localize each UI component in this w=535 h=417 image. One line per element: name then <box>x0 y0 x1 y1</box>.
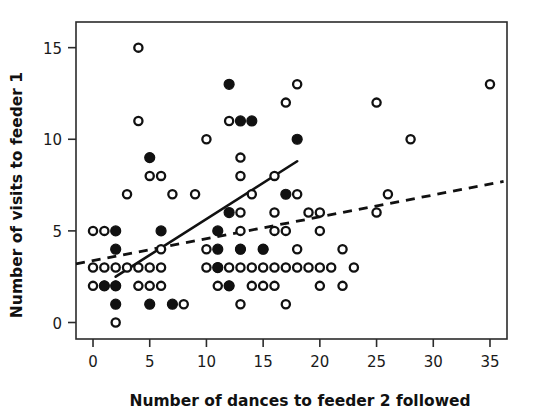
x-tick-label: 25 <box>367 353 386 371</box>
data-point-filled <box>111 244 121 254</box>
data-point-filled <box>247 116 257 126</box>
data-point-filled <box>224 281 234 291</box>
data-point-open <box>89 263 97 271</box>
data-point-filled <box>258 244 268 254</box>
chart-canvas: 05101520253035051015 Number of dances to… <box>0 0 535 417</box>
plot-frame <box>76 22 507 339</box>
data-point-open <box>327 263 335 271</box>
data-point-open <box>270 227 278 235</box>
x-tick-label: 30 <box>424 353 443 371</box>
x-axis-title: Number of dances to feeder 2 followed <box>129 392 470 410</box>
data-point-filled <box>145 153 155 163</box>
data-point-open <box>316 282 324 290</box>
data-point-open <box>134 44 142 52</box>
x-tick-label: 10 <box>197 353 216 371</box>
data-point-filled <box>111 226 121 236</box>
data-point-open <box>259 263 267 271</box>
data-point-open <box>134 282 142 290</box>
y-tick-label: 15 <box>43 40 62 58</box>
data-point-open <box>180 300 188 308</box>
data-point-open <box>225 117 233 125</box>
data-point-filled <box>235 116 245 126</box>
data-point-open <box>89 227 97 235</box>
data-point-open <box>112 263 120 271</box>
y-tick-label: 0 <box>52 315 62 333</box>
x-tick-label: 35 <box>480 353 499 371</box>
data-point-filled <box>111 299 121 309</box>
data-point-open <box>100 263 108 271</box>
data-point-open <box>214 282 222 290</box>
data-point-open <box>134 117 142 125</box>
data-point-filled <box>145 299 155 309</box>
data-point-open <box>248 263 256 271</box>
y-tick-label: 10 <box>43 131 62 149</box>
data-point-open <box>191 190 199 198</box>
data-point-open <box>202 135 210 143</box>
data-point-open <box>293 263 301 271</box>
data-point-open <box>270 172 278 180</box>
data-point-filled <box>156 226 166 236</box>
data-point-open <box>157 263 165 271</box>
data-point-filled <box>224 79 234 89</box>
data-point-filled <box>213 263 223 273</box>
regression-lines <box>76 161 504 276</box>
y-tick-label: 5 <box>52 223 62 241</box>
data-point-filled <box>281 189 291 199</box>
data-point-open <box>316 263 324 271</box>
data-point-open <box>146 263 154 271</box>
data-point-open <box>123 190 131 198</box>
scatter-plot-figure: 05101520253035051015 Number of dances to… <box>0 0 535 417</box>
data-point-open <box>112 318 120 326</box>
data-point-open <box>293 245 301 253</box>
data-point-open <box>282 300 290 308</box>
data-point-filled <box>224 208 234 218</box>
data-point-filled <box>111 281 121 291</box>
data-point-open <box>202 245 210 253</box>
data-point-open <box>248 190 256 198</box>
data-point-open <box>270 282 278 290</box>
data-point-open <box>236 208 244 216</box>
data-point-open <box>282 263 290 271</box>
data-point-open <box>259 282 267 290</box>
data-point-filled <box>99 281 109 291</box>
data-point-open <box>293 190 301 198</box>
data-point-open <box>89 282 97 290</box>
data-point-open <box>372 208 380 216</box>
data-point-filled <box>167 299 177 309</box>
y-axis-title: Number of visits to feeder 1 <box>8 72 26 318</box>
data-point-open <box>146 282 154 290</box>
x-tick-label: 15 <box>254 353 273 371</box>
data-point-open <box>157 172 165 180</box>
data-point-open <box>270 263 278 271</box>
x-tick-label: 0 <box>88 353 98 371</box>
data-points <box>89 44 494 327</box>
data-point-open <box>157 245 165 253</box>
data-point-open <box>168 190 176 198</box>
data-point-open <box>293 80 301 88</box>
data-point-open <box>282 99 290 107</box>
data-point-filled <box>235 244 245 254</box>
data-point-open <box>372 99 380 107</box>
data-point-open <box>304 208 312 216</box>
data-point-open <box>338 282 346 290</box>
data-point-open <box>100 227 108 235</box>
data-point-filled <box>213 226 223 236</box>
data-point-open <box>384 190 392 198</box>
data-point-open <box>236 300 244 308</box>
data-point-open <box>406 135 414 143</box>
data-point-open <box>157 282 165 290</box>
data-point-open <box>486 80 494 88</box>
solid-regression-line <box>116 161 297 276</box>
data-point-open <box>316 208 324 216</box>
data-point-open <box>350 263 358 271</box>
data-point-open <box>236 227 244 235</box>
data-point-open <box>225 263 233 271</box>
data-point-open <box>202 263 210 271</box>
data-point-open <box>134 263 142 271</box>
data-point-filled <box>213 244 223 254</box>
data-point-open <box>236 172 244 180</box>
data-point-open <box>270 208 278 216</box>
data-point-open <box>123 263 131 271</box>
plot-border <box>76 22 507 339</box>
x-tick-label: 20 <box>310 353 329 371</box>
